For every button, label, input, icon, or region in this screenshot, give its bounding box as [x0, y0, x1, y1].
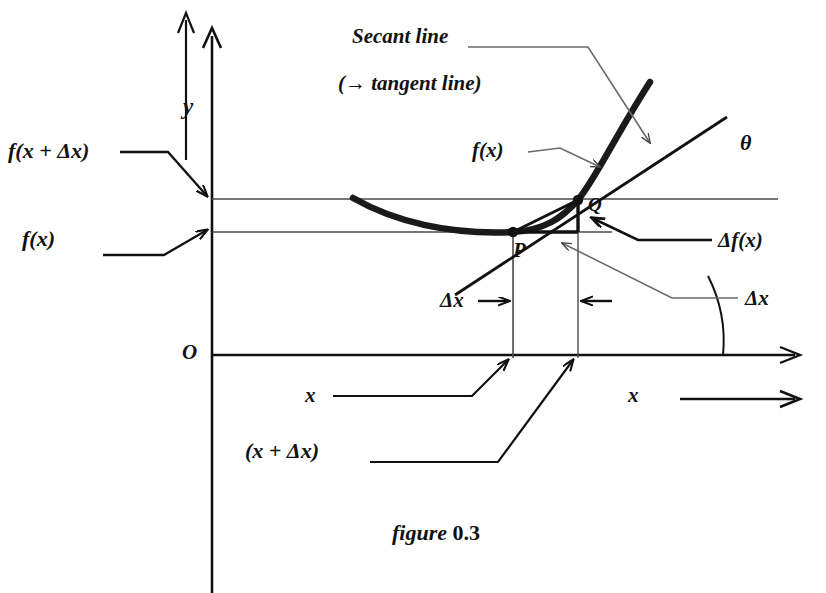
label-f-x-left: f(x) [22, 228, 55, 250]
label-point-p: P [513, 240, 526, 261]
label-x-direction: x [628, 385, 639, 406]
point-p-marker [508, 227, 518, 237]
label-delta-f-x: Δf(x) [718, 230, 763, 251]
label-delta-x-span: Δx [440, 290, 464, 311]
leader-delta-x-right [562, 243, 738, 298]
figure-caption: figure 0.3 [392, 522, 480, 544]
leader-x-plus-dx-tick [370, 360, 573, 462]
y-axis [203, 28, 221, 593]
label-tangent-line: (→ tangent line) [338, 73, 482, 94]
leader-x-tick [333, 360, 508, 396]
x-direction-arrow [680, 391, 800, 407]
figure-caption-word: figure [392, 520, 453, 545]
label-x-plus-delta-x-tick: (x + Δx) [245, 440, 319, 462]
leader-f-x-plus-dx [120, 152, 207, 196]
figure-caption-number: 0.3 [453, 520, 481, 545]
label-delta-x-right: Δx [745, 288, 769, 309]
label-f-x-plus-delta-x: f(x + Δx) [8, 140, 89, 162]
label-secant-line: Secant line [352, 26, 448, 47]
point-q-marker [573, 195, 583, 205]
figure-canvas: f(x + Δx) f(x) y Secant line (→ tangent … [0, 0, 826, 593]
label-theta: θ [740, 132, 751, 154]
y-measure-arrow [178, 13, 194, 160]
leader-f-x-curve [528, 148, 600, 167]
label-f-x-curve: f(x) [472, 140, 503, 161]
label-y-axis: y [183, 95, 193, 118]
label-x-tick: x [305, 385, 316, 406]
leader-delta-f-x [592, 218, 712, 240]
label-point-q: Q [588, 195, 602, 214]
theta-arc [708, 276, 724, 355]
label-origin: O [182, 342, 197, 363]
leader-f-x-left [103, 230, 207, 255]
